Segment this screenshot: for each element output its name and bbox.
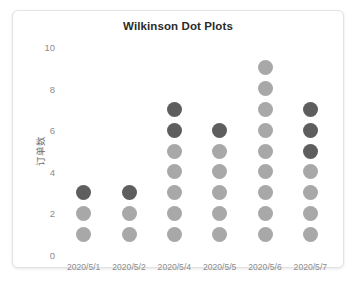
y-axis-tick-label: 4 (50, 166, 55, 177)
data-dot[interactable] (212, 164, 227, 179)
data-dot[interactable] (212, 185, 227, 200)
data-dot[interactable] (212, 227, 227, 242)
data-dot[interactable] (303, 185, 318, 200)
data-dot[interactable] (122, 227, 137, 242)
data-dot[interactable] (303, 227, 318, 242)
data-dot[interactable] (258, 81, 273, 96)
data-dot[interactable] (167, 123, 182, 138)
x-axis-tick-label: 2020/5/4 (158, 262, 191, 272)
data-dot[interactable] (122, 185, 137, 200)
x-axis-tick-label: 2020/5/7 (294, 262, 327, 272)
data-dot[interactable] (167, 206, 182, 221)
data-dot[interactable] (76, 206, 91, 221)
data-dot[interactable] (258, 60, 273, 75)
data-dot[interactable] (258, 227, 273, 242)
y-axis-title: 订单数 (33, 136, 47, 166)
data-dot[interactable] (258, 144, 273, 159)
y-axis-tick-label: 10 (44, 42, 55, 53)
data-dot[interactable] (303, 123, 318, 138)
x-axis-tick-label: 2020/5/2 (112, 262, 145, 272)
data-dot[interactable] (212, 206, 227, 221)
data-dot[interactable] (258, 102, 273, 117)
data-dot[interactable] (167, 144, 182, 159)
data-dot[interactable] (258, 206, 273, 221)
data-dot[interactable] (303, 102, 318, 117)
x-axis-tick-label: 2020/5/5 (203, 262, 236, 272)
data-dot[interactable] (167, 164, 182, 179)
data-dot[interactable] (258, 123, 273, 138)
data-dot[interactable] (167, 102, 182, 117)
data-dot[interactable] (258, 164, 273, 179)
data-dot[interactable] (167, 185, 182, 200)
data-dot[interactable] (303, 164, 318, 179)
y-axis-tick-label: 8 (50, 83, 55, 94)
y-axis-tick-label: 2 (50, 208, 55, 219)
x-axis-tick-label: 2020/5/1 (67, 262, 100, 272)
data-dot[interactable] (76, 227, 91, 242)
y-axis-tick-label: 6 (50, 125, 55, 136)
chart-card: Wilkinson Dot Plots 订单数 0246810 2020/5/1… (12, 10, 344, 268)
data-dot[interactable] (303, 144, 318, 159)
data-dot[interactable] (122, 206, 137, 221)
chart-title: Wilkinson Dot Plots (13, 20, 343, 32)
data-dot[interactable] (167, 227, 182, 242)
data-dot[interactable] (258, 185, 273, 200)
data-dot[interactable] (212, 123, 227, 138)
data-dot[interactable] (212, 144, 227, 159)
plot-area: 订单数 0246810 2020/5/12020/5/22020/5/42020… (61, 47, 333, 255)
y-axis-tick-label: 0 (50, 250, 55, 261)
data-dot[interactable] (76, 185, 91, 200)
data-dot[interactable] (303, 206, 318, 221)
x-axis-tick-label: 2020/5/6 (248, 262, 281, 272)
